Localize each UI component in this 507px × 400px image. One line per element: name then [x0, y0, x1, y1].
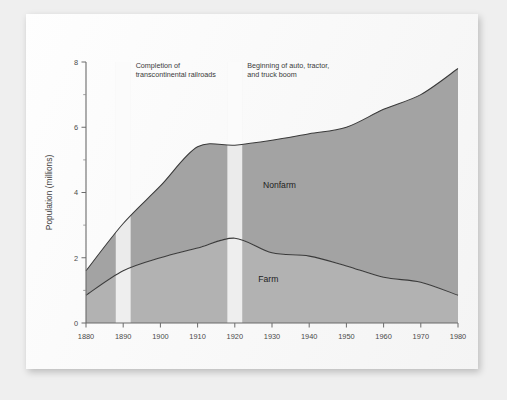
- y-tick-label: 4: [74, 188, 78, 197]
- y-tick-label: 2: [74, 254, 78, 263]
- y-axis-title: Population (millions): [44, 155, 54, 231]
- series-label-farm: Farm: [258, 274, 278, 284]
- x-axis-ticks: 1880189019001910192019301940195019601970…: [78, 323, 466, 341]
- x-tick-label: 1890: [115, 332, 131, 341]
- annotation-auto-boom-line: Beginning of auto, tractor,: [247, 61, 329, 70]
- y-tick-label: 0: [74, 319, 78, 328]
- series-label-nonfarm: Nonfarm: [263, 180, 296, 190]
- screenshot-page: 02468 1880189019001910192019301940195019…: [0, 0, 507, 400]
- y-tick-label: 6: [74, 123, 78, 132]
- x-tick-label: 1930: [264, 332, 280, 341]
- population-area-chart: 02468 1880189019001910192019301940195019…: [26, 14, 478, 369]
- y-tick-label: 8: [74, 58, 78, 67]
- x-tick-label: 1880: [78, 332, 94, 341]
- x-tick-label: 1900: [152, 332, 168, 341]
- x-tick-label: 1970: [413, 332, 429, 341]
- annotation-auto-boom-line: and truck boom: [247, 70, 297, 79]
- annotation-railroads-line: Completion of: [136, 61, 180, 70]
- x-tick-label: 1950: [338, 332, 354, 341]
- y-axis-ticks: 02468: [74, 58, 86, 328]
- chart-container: 02468 1880189019001910192019301940195019…: [26, 14, 478, 369]
- annotation-railroads-line: transcontinental railroads: [136, 70, 217, 79]
- x-tick-label: 1940: [301, 332, 317, 341]
- x-tick-label: 1960: [375, 332, 391, 341]
- highlight-band-overlay-railroads: [116, 62, 131, 323]
- x-tick-label: 1910: [189, 332, 205, 341]
- x-tick-label: 1980: [450, 332, 466, 341]
- highlight-band-overlay-auto-boom: [227, 62, 242, 323]
- x-tick-label: 1920: [227, 332, 243, 341]
